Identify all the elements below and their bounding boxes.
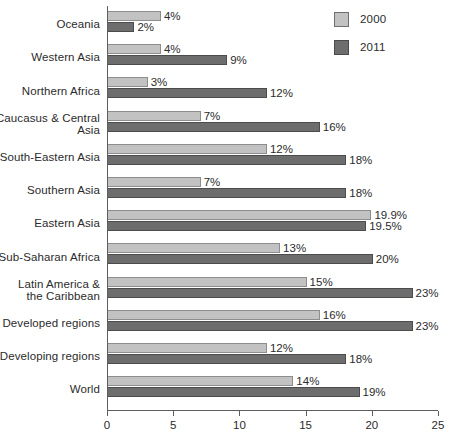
bar-2011 bbox=[108, 288, 413, 298]
bar-2000 bbox=[108, 77, 148, 87]
bar-value-label: 12% bbox=[270, 342, 293, 354]
x-axis-tick-label: 20 bbox=[365, 419, 378, 431]
bar-2011 bbox=[108, 254, 373, 264]
bar-2011 bbox=[108, 22, 134, 32]
bar-2011 bbox=[108, 387, 360, 397]
category-label: South-Eastern Asia bbox=[0, 151, 100, 164]
bar-2011 bbox=[108, 221, 366, 231]
bar-2000 bbox=[108, 111, 201, 121]
category-label: Western Asia bbox=[0, 51, 100, 64]
x-axis-tick bbox=[438, 411, 439, 416]
bar-2011 bbox=[108, 354, 346, 364]
x-axis-tick-label: 5 bbox=[170, 419, 176, 431]
x-axis-tick-label: 25 bbox=[432, 419, 445, 431]
bar-value-label: 18% bbox=[349, 154, 372, 166]
bar-2000 bbox=[108, 210, 371, 220]
bar-2000 bbox=[108, 177, 201, 187]
bar-value-label: 4% bbox=[164, 10, 181, 22]
category-label: Eastern Asia bbox=[0, 217, 100, 230]
x-axis-tick-label: 15 bbox=[299, 419, 312, 431]
legend-item-2011: 2011 bbox=[334, 37, 444, 57]
bar-2000 bbox=[108, 277, 307, 287]
category-label: Sub-Saharan Africa bbox=[0, 251, 100, 264]
x-axis-tick bbox=[306, 411, 307, 416]
category-label: Northern Africa bbox=[0, 85, 100, 98]
bar-value-label: 16% bbox=[323, 309, 346, 321]
category-label: Developed regions bbox=[0, 317, 100, 330]
bar-value-label: 12% bbox=[270, 87, 293, 99]
bar-value-label: 3% bbox=[151, 76, 168, 88]
bar-value-label: 13% bbox=[283, 242, 306, 254]
x-axis-tick bbox=[107, 411, 108, 416]
legend-swatch-icon-2000 bbox=[334, 12, 349, 27]
bar-2000 bbox=[108, 310, 320, 320]
bar-2000 bbox=[108, 243, 280, 253]
bar-value-label: 23% bbox=[416, 287, 439, 299]
category-label: Developing regions bbox=[0, 350, 100, 363]
x-axis-tick-label: 10 bbox=[233, 419, 246, 431]
bar-value-label: 19.5% bbox=[369, 220, 402, 232]
bar-value-label: 7% bbox=[204, 110, 221, 122]
bar-value-label: 12% bbox=[270, 143, 293, 155]
bar-value-label: 7% bbox=[204, 176, 221, 188]
bar-2000 bbox=[108, 343, 267, 353]
bar-value-label: 2% bbox=[137, 21, 154, 33]
legend-label-2000: 2000 bbox=[360, 13, 386, 25]
bar-2011 bbox=[108, 88, 267, 98]
bar-value-label: 4% bbox=[164, 43, 181, 55]
bar-value-label: 14% bbox=[296, 375, 319, 387]
legend-swatch-icon-2011 bbox=[334, 40, 349, 55]
bar-value-label: 20% bbox=[376, 253, 399, 265]
category-label: Caucasus & CentralAsia bbox=[0, 112, 100, 137]
bar-2011 bbox=[108, 321, 413, 331]
bar-2011 bbox=[108, 188, 346, 198]
legend-item-2000: 2000 bbox=[334, 9, 444, 29]
bar-2011 bbox=[108, 155, 346, 165]
bar-value-label: 18% bbox=[349, 353, 372, 365]
category-label: World bbox=[0, 383, 100, 396]
bar-chart: 2000 2011 0510152025 Oceania4%2%Western … bbox=[0, 0, 449, 445]
category-label: Southern Asia bbox=[0, 184, 100, 197]
bar-2011 bbox=[108, 122, 320, 132]
bar-2000 bbox=[108, 11, 161, 21]
bar-2000 bbox=[108, 44, 161, 54]
chart-legend: 2000 2011 bbox=[334, 9, 444, 65]
x-axis-line bbox=[107, 410, 438, 411]
category-label: Oceania bbox=[0, 18, 100, 31]
x-axis-tick bbox=[239, 411, 240, 416]
bar-2000 bbox=[108, 376, 293, 386]
bar-value-label: 9% bbox=[230, 54, 247, 66]
bar-value-label: 18% bbox=[349, 187, 372, 199]
bar-value-label: 19% bbox=[363, 386, 386, 398]
bar-2000 bbox=[108, 144, 267, 154]
category-label: Latin America &the Caribbean bbox=[0, 278, 100, 303]
bar-2011 bbox=[108, 55, 227, 65]
bar-value-label: 23% bbox=[416, 320, 439, 332]
legend-label-2011: 2011 bbox=[360, 41, 386, 53]
x-axis-tick bbox=[372, 411, 373, 416]
bar-value-label: 15% bbox=[310, 276, 333, 288]
x-axis-tick bbox=[173, 411, 174, 416]
x-axis-tick-label: 0 bbox=[104, 419, 110, 431]
bar-value-label: 16% bbox=[323, 121, 346, 133]
